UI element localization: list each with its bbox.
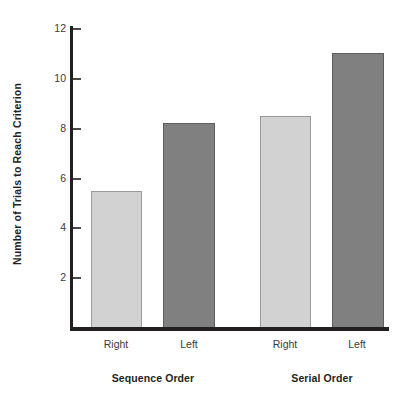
y-tick-label-2: 2 [38, 272, 66, 283]
y-tick-mark-12 [73, 28, 81, 30]
category-label-serial-right: Right [250, 338, 320, 351]
y-tick-mark-8 [73, 128, 81, 130]
category-label-sequence-right: Right [81, 338, 151, 351]
category-label-sequence-left: Left [154, 338, 224, 351]
y-tick-label-10: 10 [38, 73, 66, 84]
group-label-serial-order: Serial Order [247, 372, 397, 385]
y-tick-mark-4 [73, 227, 81, 229]
y-tick-mark-2 [73, 277, 81, 279]
y-axis-title: Number of Trials to Reach Criterion [6, 40, 28, 308]
y-tick-label-12: 12 [38, 23, 66, 34]
y-tick-label-8: 8 [38, 123, 66, 134]
bar-sequence-left [163, 123, 215, 327]
y-tick-mark-10 [73, 78, 81, 80]
group-label-sequence-order: Sequence Order [78, 372, 228, 385]
y-tick-mark-6 [73, 178, 81, 180]
bar-sequence-right [91, 191, 142, 327]
x-axis-line [70, 327, 389, 331]
category-label-serial-left: Left [322, 338, 392, 351]
bar-chart-figure: Number of Trials to Reach Criterion 12 1… [0, 0, 419, 398]
y-tick-label-4: 4 [38, 222, 66, 233]
bar-serial-left [332, 53, 384, 327]
bar-serial-right [260, 116, 311, 327]
y-tick-label-6: 6 [38, 173, 66, 184]
